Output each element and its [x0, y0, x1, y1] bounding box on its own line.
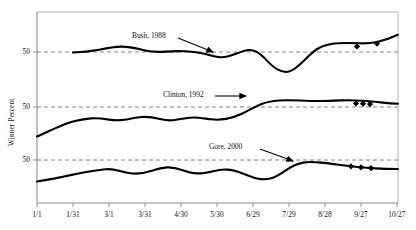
- x-tick-label-2: 3/1: [91, 210, 127, 219]
- series-line-clinton-1992: [37, 100, 398, 136]
- series-markers-clinton-1992: [353, 100, 373, 107]
- annotation-label-gore-2000: Gore, 2000: [209, 142, 242, 151]
- x-tick-label-5: 5/30: [199, 210, 235, 219]
- annotation-arrow-gore: [260, 149, 293, 161]
- x-tick-label-10: 10/27: [379, 210, 415, 219]
- winner-percent-chart-figure: Winner Percent 50 50 50 1/1 1/31 3/1 3/3…: [0, 0, 416, 230]
- plot-frame: [37, 12, 398, 203]
- x-tick-label-6: 6/29: [235, 210, 271, 219]
- x-tick-label-7: 7/29: [271, 210, 307, 219]
- series-line-gore-2000: [37, 162, 398, 182]
- series-markers-gore-2000: [348, 163, 374, 171]
- x-tick-label-9: 9/27: [343, 210, 379, 219]
- x-tick-label-3: 3/31: [127, 210, 163, 219]
- y-tick-label-gore-50: 50: [12, 155, 30, 164]
- y-axis-ticks: [33, 52, 37, 160]
- x-tick-label-4: 4/30: [163, 210, 199, 219]
- chart-canvas: [0, 0, 416, 230]
- y-tick-label-bush-50: 50: [12, 47, 30, 56]
- series-markers-bush-1988: [354, 41, 380, 50]
- x-tick-label-8: 8/28: [307, 210, 343, 219]
- x-tick-label-0: 1/1: [19, 210, 55, 219]
- series-line-bush-1988: [73, 35, 398, 72]
- annotation-label-bush-1988: Bush, 1988: [132, 31, 166, 40]
- x-axis-ticks: [37, 203, 397, 207]
- y-tick-label-clinton-50: 50: [12, 102, 30, 111]
- annotation-label-clinton-1992: Clinton, 1992: [163, 90, 204, 99]
- x-tick-label-1: 1/31: [55, 210, 91, 219]
- annotation-arrow-bush: [178, 38, 213, 52]
